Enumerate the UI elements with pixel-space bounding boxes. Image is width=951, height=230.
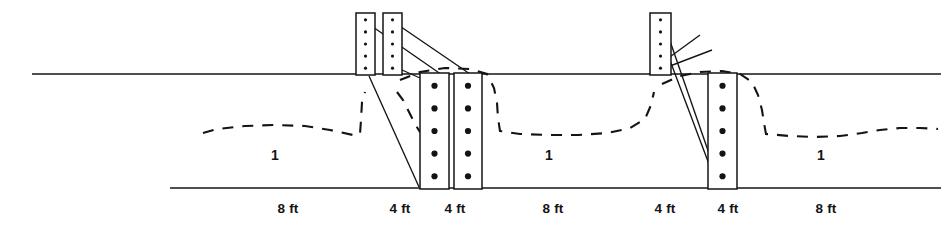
lower-post-left-a-bolt	[431, 105, 437, 111]
upper-post-left-a-bolt	[364, 18, 367, 21]
soil-curve-4	[662, 71, 938, 137]
dimension-label: 8 ft	[815, 201, 836, 216]
upper-post-left-a-bolt	[364, 42, 367, 45]
lower-post-left-a-bolt	[431, 128, 437, 134]
drawing-canvas	[0, 0, 951, 230]
ground-lines-group	[32, 74, 941, 188]
upper-post-right-a-bolt	[659, 42, 662, 45]
upper-post-right-a-bolt	[659, 54, 662, 57]
lower-post-left-b-bolt	[465, 105, 471, 111]
upper-post-left-b-bolt	[391, 18, 394, 21]
lower-post-right-a-bolt	[719, 151, 725, 157]
dimension-label: 4 ft	[389, 201, 410, 216]
upper-post-right-a	[650, 13, 671, 75]
upper-post-right-a-bolt	[659, 18, 662, 21]
lower-post-right-a-bolt	[719, 83, 725, 89]
lower-post-left-a-bolt	[431, 83, 437, 89]
upper-post-left-b-bolt	[391, 42, 394, 45]
lower-post-left-a-bolt	[431, 173, 437, 179]
span-number-label: 1	[545, 147, 553, 163]
lower-post-left-b-bolt	[465, 151, 471, 157]
upper-post-right-a-bolt	[659, 30, 662, 33]
dimension-label: 4 ft	[444, 201, 465, 216]
dimension-label: 8 ft	[542, 201, 563, 216]
dimension-label: 4 ft	[717, 201, 738, 216]
lower-post-right-a-bolt	[719, 105, 725, 111]
dimension-label: 4 ft	[654, 201, 675, 216]
upper-post-left-b	[383, 13, 402, 75]
lower-post-right-a-bolt	[719, 173, 725, 179]
brace-left-3	[369, 76, 419, 187]
lower-post-left-b	[454, 73, 482, 189]
shoring-section-figure: 8 ft4 ft4 ft8 ft4 ft4 ft8 ft 111	[0, 0, 951, 230]
upper-post-left-b-bolt	[391, 67, 394, 70]
span-number-label: 1	[271, 147, 279, 163]
lower-post-right-a-bolt	[719, 128, 725, 134]
lower-post-left-a-bolt	[431, 151, 437, 157]
lower-post-left-a	[420, 73, 449, 189]
upper-post-left-a-bolt	[364, 67, 367, 70]
upper-post-left-a-bolt	[364, 54, 367, 57]
soil-curve-1	[203, 92, 365, 135]
lower-post-left-b-bolt	[465, 83, 471, 89]
lower-post-left-b-bolt	[465, 173, 471, 179]
upper-post-left-b-bolt	[391, 54, 394, 57]
dimension-label: 8 ft	[277, 201, 298, 216]
lower-post-right-a	[708, 73, 737, 189]
soil-profile-curves-group	[203, 68, 938, 137]
upper-post-right-a-bolt	[659, 67, 662, 70]
upper-post-left-b-bolt	[391, 30, 394, 33]
span-number-label: 1	[817, 147, 825, 163]
lower-post-left-b-bolt	[465, 128, 471, 134]
upper-post-left-a	[356, 13, 375, 75]
upper-post-left-a-bolt	[364, 30, 367, 33]
